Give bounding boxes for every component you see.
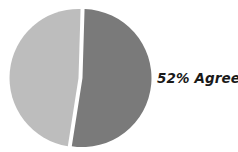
agree-label: 52% Agree <box>157 70 238 86</box>
pie-slice-other <box>10 9 81 146</box>
pie-slices <box>10 9 152 147</box>
pie-slice-agree <box>72 9 152 147</box>
